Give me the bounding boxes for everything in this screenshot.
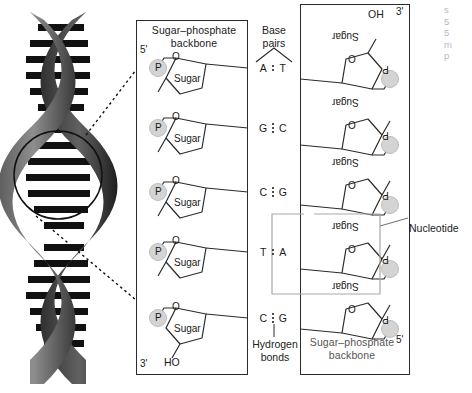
base-right: A [278,245,287,259]
base-right: G [278,185,287,199]
left-panel-title: Sugar–phosphate backbone [142,24,246,49]
left-terminal-hydroxyl-label: HO [164,356,180,368]
base-left: G [259,121,268,135]
base-pair-2: G C [248,121,298,135]
figure-canvas: P O Sugar P O Sugar P O Sugar P O Sugar … [0,0,472,393]
callout-leader-top [86,70,136,135]
hydrogen-bond-dots [272,313,275,324]
base-pair-5: C G [248,311,298,325]
left-phosphate-group [150,60,167,327]
base-left: A [259,61,268,75]
right-five-prime-label: 5' [396,334,403,345]
base-right: C [278,121,287,135]
base-right: G [278,311,287,325]
helix-rungs [26,24,90,363]
base-left: C [259,311,268,325]
left-five-prime-label: 5' [140,44,147,55]
left-strand-structure [136,20,248,375]
base-left: C [259,185,268,199]
hydrogen-bond-dots [272,249,275,256]
hydrogen-bond-leader [268,324,280,338]
base-pair-3: C G [248,185,298,199]
right-strand-structure [300,4,410,375]
hydrogen-bond-dots [272,187,275,198]
dna-helix-illustration [0,0,136,393]
hydrogen-bond-label: Hydrogen bonds [246,338,304,363]
right-terminal-hydroxyl-label: OH [368,8,384,20]
cropped-caption-text: s 5 5 m p [444,4,472,62]
base-pair-4: T A [248,245,298,259]
helix-svg [0,0,136,393]
hydrogen-bond-dots [272,65,275,72]
left-three-prime-label: 3' [140,358,147,369]
hydrogen-bond-dots [272,123,275,134]
base-left: T [259,245,268,259]
right-three-prime-label: 3' [396,6,403,17]
base-right: T [278,61,287,75]
right-panel-title: Sugar–phosphate backbone [302,336,402,361]
nucleotide-annotation: Nucleotide [409,222,459,234]
helix-body [0,12,118,384]
base-pair-1: A T [248,61,298,75]
